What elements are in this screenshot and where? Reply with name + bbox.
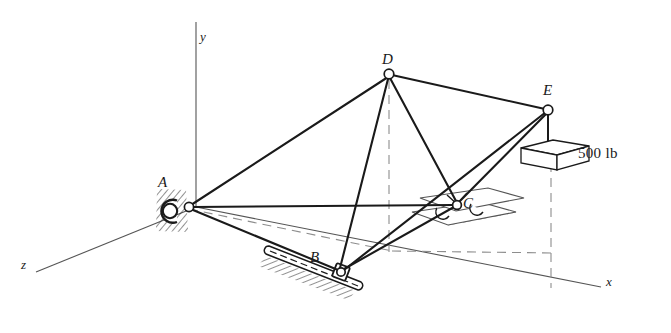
projection-A-to-base-line	[189, 209, 392, 251]
axis-x-line	[196, 207, 601, 287]
joint-label-D: D	[382, 51, 393, 68]
projection-base-to-E-line	[392, 251, 556, 253]
joint-node-B	[337, 268, 345, 276]
joint-node-A	[184, 202, 193, 211]
load-label-500lb: 500 lb	[578, 145, 618, 162]
joint-node-D	[384, 69, 394, 79]
projection-lines	[189, 80, 556, 288]
space-truss-diagram	[0, 0, 671, 333]
axis-label-z: z	[21, 257, 26, 273]
member-AD	[191, 77, 388, 205]
axis-label-x: x	[606, 274, 612, 290]
member-DE	[392, 75, 545, 109]
joint-label-A: A	[158, 174, 167, 191]
joint-node-C	[453, 201, 462, 210]
joint-label-E: E	[543, 82, 552, 99]
member-BC	[344, 207, 454, 269]
coordinate-axes	[36, 22, 601, 287]
axis-label-y: y	[200, 29, 206, 45]
joint-node-E	[543, 105, 553, 115]
socket-inner-circle-A	[163, 204, 177, 218]
member-CD	[390, 78, 456, 201]
member-AC	[194, 205, 453, 207]
ball-and-socket-support-A	[156, 189, 188, 232]
figure-root: A B C D E y x z 500 lb	[0, 0, 671, 333]
joint-label-B: B	[310, 249, 319, 266]
joint-label-C: C	[463, 195, 473, 212]
